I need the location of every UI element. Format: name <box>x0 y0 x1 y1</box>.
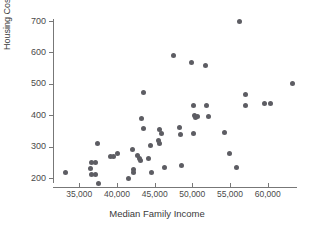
data-point <box>178 132 183 137</box>
data-point <box>171 53 176 58</box>
y-tick-label-300: 300 <box>31 142 46 151</box>
x-tick-45000 <box>155 183 156 188</box>
data-point <box>146 156 151 161</box>
x-tick-label-45000: 45,000 <box>142 190 168 199</box>
x-axis-title: Median Family Income <box>0 208 314 219</box>
data-point <box>237 19 242 24</box>
data-point <box>290 81 295 86</box>
x-tick-55000 <box>230 183 231 188</box>
y-axis-title: Housing Cost Index <box>2 0 12 50</box>
x-tick-label-35000: 35,000 <box>66 190 92 199</box>
x-tick-label-60000: 60,000 <box>255 190 281 199</box>
data-point <box>227 151 232 156</box>
y-tick-label-400: 400 <box>31 111 46 120</box>
scatter-plot-figure: 200300400500600700 35,00040,00045,00050,… <box>0 0 314 234</box>
x-tick-40000 <box>117 183 118 188</box>
x-tick-60000 <box>268 183 269 188</box>
x-tick-35000 <box>79 183 80 188</box>
data-point <box>141 90 146 95</box>
data-point <box>96 181 101 186</box>
data-point <box>203 63 208 68</box>
data-point <box>191 103 196 108</box>
data-point <box>189 60 194 65</box>
x-tick-label-50000: 50,000 <box>179 190 205 199</box>
data-point <box>191 131 196 136</box>
data-point <box>243 103 248 108</box>
data-point <box>115 151 120 156</box>
data-point <box>262 101 267 106</box>
data-point <box>95 141 100 146</box>
plot-area <box>53 18 293 182</box>
data-point <box>149 170 154 175</box>
data-point <box>93 172 98 177</box>
data-point <box>243 92 248 97</box>
data-point <box>126 176 131 181</box>
data-point <box>138 158 143 163</box>
data-point <box>157 141 162 146</box>
data-point <box>141 126 146 131</box>
y-tick-label-700: 700 <box>31 17 46 26</box>
data-point <box>63 170 68 175</box>
data-point <box>177 125 182 130</box>
x-tick-50000 <box>192 183 193 188</box>
data-point <box>268 101 273 106</box>
data-point <box>234 165 239 170</box>
data-point <box>222 130 227 135</box>
data-point <box>130 147 135 152</box>
data-point <box>139 116 144 121</box>
data-point <box>93 160 98 165</box>
data-point <box>179 163 184 168</box>
data-point <box>159 131 164 136</box>
y-tick-label-500: 500 <box>31 79 46 88</box>
data-point <box>204 103 209 108</box>
data-point <box>88 166 93 171</box>
x-tick-label-55000: 55,000 <box>217 190 243 199</box>
data-point <box>148 143 153 148</box>
y-tick-label-600: 600 <box>31 48 46 57</box>
y-tick-label-200: 200 <box>31 174 46 183</box>
x-axis-line <box>53 187 297 188</box>
data-point <box>131 170 136 175</box>
data-point <box>195 114 200 119</box>
data-point <box>206 114 211 119</box>
data-point <box>162 165 167 170</box>
x-tick-label-40000: 40,000 <box>104 190 130 199</box>
